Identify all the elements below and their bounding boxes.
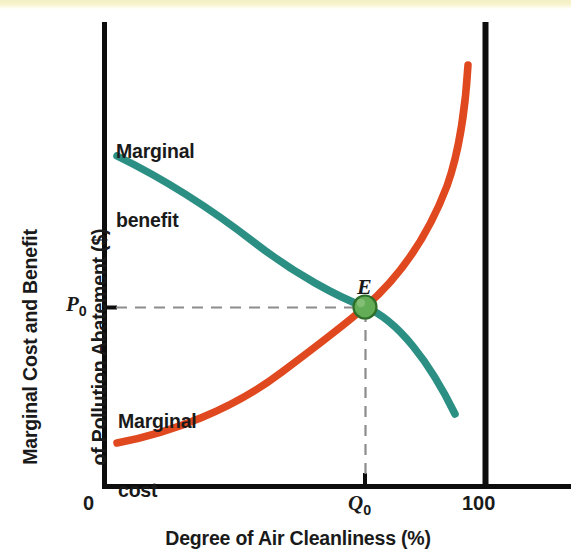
- x-tick-label-q0: Q0: [348, 491, 371, 519]
- x-tick-label-q0-sub: 0: [363, 502, 371, 518]
- equilibrium-point-label: E: [357, 274, 372, 300]
- marginal-cost-label-line2: cost: [118, 479, 197, 502]
- x-tick-label-0: 0: [83, 492, 94, 516]
- y-tick-label-p0-sub: 0: [79, 303, 87, 319]
- marginal-cost-label-line1: Marginal: [118, 410, 197, 433]
- y-tick-label-p0-base: P: [66, 292, 79, 316]
- marginal-benefit-label-line2: benefit: [116, 209, 195, 232]
- chart-figure: Marginal Cost and Benefit of Pollution A…: [0, 0, 571, 558]
- marginal-benefit-label-line1: Marginal: [116, 140, 195, 163]
- equilibrium-point-highlight: [357, 299, 365, 307]
- x-tick-label-100: 100: [462, 492, 495, 516]
- x-tick-label-q0-base: Q: [348, 491, 363, 515]
- marginal-cost-label: Marginal cost: [118, 364, 197, 548]
- marginal-benefit-label: Marginal benefit: [116, 94, 195, 278]
- y-axis-title-line1: Marginal Cost and Benefit: [19, 137, 42, 557]
- y-tick-label-p0: P0: [66, 292, 87, 320]
